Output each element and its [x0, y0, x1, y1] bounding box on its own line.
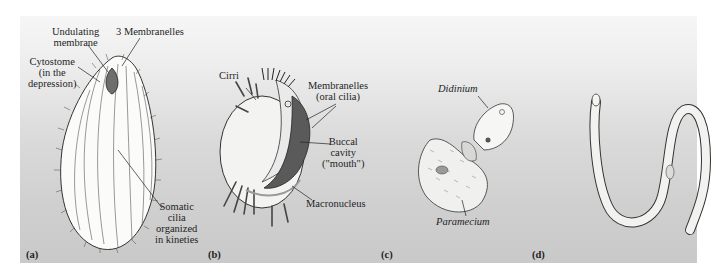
label-line: ("mouth")	[322, 158, 364, 169]
label-line: in kineties	[155, 234, 198, 245]
label-membranelles-oral-cilia: Membranelles (oral cilia)	[308, 80, 368, 102]
label-line: membrane	[52, 37, 99, 48]
label-line: (in the	[28, 67, 76, 78]
label-paramecium: Paramecium	[436, 216, 490, 227]
label-3-membranelles: 3 Membranelles	[116, 26, 184, 37]
label-line: Buccal	[322, 136, 364, 147]
label-line: Somatic	[155, 201, 198, 212]
panel-letter-c: (c)	[381, 249, 393, 260]
label-macronucleus: Macronucleus	[306, 198, 365, 209]
label-cirri: Cirri	[219, 70, 239, 81]
label-line: Undulating	[52, 26, 99, 37]
label-cytostome: Cytostome (in the depression)	[28, 56, 76, 89]
label-line: depression)	[28, 78, 76, 89]
label-line: Cytostome	[28, 56, 76, 67]
label-somatic-cilia: Somatic cilia organized in kineties	[155, 201, 198, 245]
label-line: (oral cilia)	[308, 91, 368, 102]
label-undulating-membrane: Undulating membrane	[52, 26, 99, 48]
label-line: cavity	[322, 147, 364, 158]
didinium-paramecium-illustration	[418, 96, 513, 216]
label-line: Membranelles	[308, 80, 368, 91]
panel-letter-b: (b)	[208, 249, 221, 260]
label-line: cilia	[155, 212, 198, 223]
worm-ciliate-illustration	[592, 94, 706, 230]
panel-letter-a: (a)	[26, 249, 38, 260]
label-didinium: Didinium	[438, 83, 478, 94]
label-line: organized	[155, 223, 198, 234]
panel-letter-d: (d)	[532, 249, 545, 260]
label-buccal-cavity: Buccal cavity ("mouth")	[322, 136, 364, 169]
